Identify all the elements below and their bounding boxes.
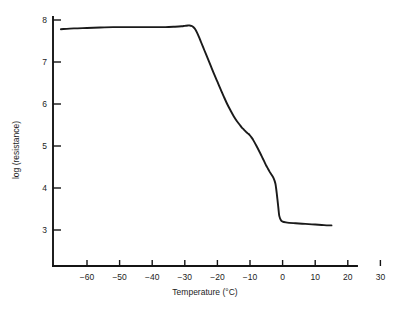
x-tick-label--50: −50 — [112, 272, 127, 282]
x-tick-label-20: 20 — [343, 272, 353, 282]
x-axis-title: Temperature (°C) — [172, 287, 237, 297]
y-tick-label-8: 8 — [42, 15, 47, 25]
y-tick-label-7: 7 — [42, 57, 47, 67]
x-tick-label--20: −20 — [210, 272, 225, 282]
x-tick-label-10: 10 — [310, 272, 320, 282]
x-tick-label--40: −40 — [145, 272, 160, 282]
x-tick-label--10: −10 — [243, 272, 258, 282]
x-tick-label--30: −30 — [178, 272, 193, 282]
y-axis-title: log (resistance) — [11, 121, 21, 179]
y-tick-label-5: 5 — [42, 141, 47, 151]
chart-canvas: 345678 log (resistance) −60−50−40−30−20−… — [0, 0, 402, 314]
x-tick-label-0: 0 — [280, 272, 285, 282]
x-tick-label-30: 30 — [376, 272, 386, 282]
y-tick-label-3: 3 — [42, 225, 47, 235]
x-tick-label--60: −60 — [80, 272, 95, 282]
y-tick-label-4: 4 — [42, 183, 47, 193]
y-tick-label-6: 6 — [42, 99, 47, 109]
resistance-vs-temperature-chart: 345678 log (resistance) −60−50−40−30−20−… — [0, 0, 402, 314]
